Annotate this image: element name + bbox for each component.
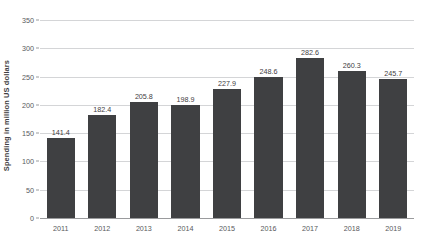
x-axis-tick-label: 2012 bbox=[94, 224, 110, 233]
y-axis-tick-label: 50 bbox=[4, 185, 34, 194]
x-axis-tick-label: 2014 bbox=[177, 224, 193, 233]
bar-value-label: 205.8 bbox=[135, 92, 153, 101]
y-axis-tick-label: 100 bbox=[4, 157, 34, 166]
x-axis-tick-label: 2016 bbox=[261, 224, 277, 233]
bar-chart: Spending in million US dollars 050100150… bbox=[0, 0, 428, 251]
bar-value-label: 260.3 bbox=[343, 61, 361, 70]
bar-value-label: 182.4 bbox=[93, 105, 111, 114]
bar-value-label: 227.9 bbox=[218, 79, 236, 88]
y-axis-tick-label: 250 bbox=[4, 72, 34, 81]
y-axis-tick-label: 150 bbox=[4, 129, 34, 138]
x-axis-tick-label: 2015 bbox=[219, 224, 235, 233]
x-axis-tick-label: 2013 bbox=[136, 224, 152, 233]
bar-value-label: 282.6 bbox=[301, 48, 319, 57]
bar-value-label: 141.4 bbox=[52, 128, 70, 137]
x-axis-tick-label: 2019 bbox=[385, 224, 401, 233]
y-axis-tick-labels: 050100150200250300350 bbox=[0, 10, 38, 222]
y-axis-tick-label: 0 bbox=[4, 214, 34, 223]
bar-value-label: 248.6 bbox=[260, 67, 278, 76]
x-axis-tick-label: 2017 bbox=[302, 224, 318, 233]
x-axis-tick-label: 2018 bbox=[344, 224, 360, 233]
bar-value-label: 198.9 bbox=[176, 95, 194, 104]
bar-value-labels: 141.4182.4205.8198.9227.9248.6282.6260.3… bbox=[40, 10, 414, 218]
y-axis-tick-label: 350 bbox=[4, 16, 34, 25]
x-axis-tick-label: 2011 bbox=[53, 224, 68, 233]
bar-value-label: 245.7 bbox=[384, 69, 402, 78]
axis-baseline bbox=[40, 218, 414, 219]
x-axis-tick-labels: 201120122013201420152016201720182019 bbox=[40, 224, 414, 238]
y-axis-tick-label: 300 bbox=[4, 44, 34, 53]
y-axis-tick-label: 200 bbox=[4, 100, 34, 109]
